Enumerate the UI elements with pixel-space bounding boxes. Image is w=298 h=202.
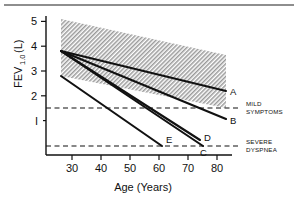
y-axis-title-subscript: 1.0: [18, 55, 27, 65]
y-axis-title-main: FEV: [12, 66, 24, 88]
x-tick-label-50: 50: [124, 162, 136, 174]
y-axis-title: FEV 1.0 (L): [12, 40, 27, 88]
curve-label-B: B: [230, 115, 236, 126]
x-tick-label-60: 60: [153, 162, 165, 174]
curve-label-D: D: [204, 132, 211, 143]
curve-label-A: A: [230, 86, 237, 97]
y-axis-title-unit: (L): [12, 40, 24, 53]
threshold-label-severe-line1: SEVERE: [246, 138, 272, 145]
y-tick-label-4: 4: [31, 40, 37, 52]
y-tick-label-2: 2: [31, 90, 37, 102]
threshold-label-mild-line1: MILD: [246, 100, 262, 107]
curve-label-E: E: [166, 134, 172, 145]
y-tick-label-1: I: [35, 115, 38, 127]
x-tick-label-80: 80: [211, 162, 223, 174]
threshold-label-severe-line2: DYSPNEA: [246, 146, 278, 153]
x-tick-label-40: 40: [95, 162, 107, 174]
x-tick-marks: [72, 155, 217, 160]
curve-label-C: C: [200, 147, 207, 158]
figure-container: 5 4 3 2 I 30 40 50 60 70 80 Age (Years) …: [0, 0, 298, 202]
fev1-decline-chart: 5 4 3 2 I 30 40 50 60 70 80 Age (Years) …: [0, 0, 298, 202]
y-tick-label-3: 3: [31, 65, 37, 77]
y-tick-label-5: 5: [31, 15, 37, 27]
page-top-rule: [4, 4, 294, 6]
x-axis-title: Age (Years): [114, 181, 172, 193]
x-tick-label-30: 30: [66, 162, 78, 174]
y-tick-marks: [41, 21, 46, 120]
normal-range-band: [61, 19, 226, 108]
threshold-label-mild-line2: SYMPTOMS: [246, 108, 283, 115]
x-tick-label-70: 70: [182, 162, 194, 174]
